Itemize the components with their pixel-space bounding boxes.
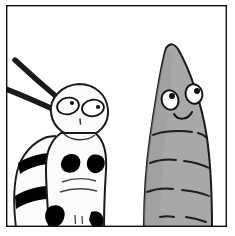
caterpillar-pupil-right <box>96 105 100 109</box>
segment-line-3 <box>75 215 76 224</box>
pupa-pupil-left <box>169 93 175 99</box>
caterpillar-pupil-left <box>70 101 74 105</box>
segment-line-4 <box>82 216 83 224</box>
comic-panel <box>0 0 235 236</box>
pupa-pupil-right <box>194 88 200 94</box>
panel-artwork <box>0 0 235 236</box>
pupa-segment-4 <box>160 216 174 217</box>
caterpillar-mouth <box>80 119 81 124</box>
